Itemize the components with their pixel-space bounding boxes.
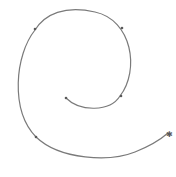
point-marker-icon <box>35 136 38 139</box>
point-marker-icon <box>65 97 68 100</box>
end-marker-icon: ✱ <box>166 130 173 139</box>
point-marker-icon <box>34 28 37 31</box>
spiral-markers: ✱ <box>34 27 173 139</box>
spiral-curve <box>18 10 168 158</box>
point-marker-icon <box>121 27 124 30</box>
point-marker-icon <box>120 95 123 98</box>
spiral-diagram: ✱ <box>0 0 176 177</box>
